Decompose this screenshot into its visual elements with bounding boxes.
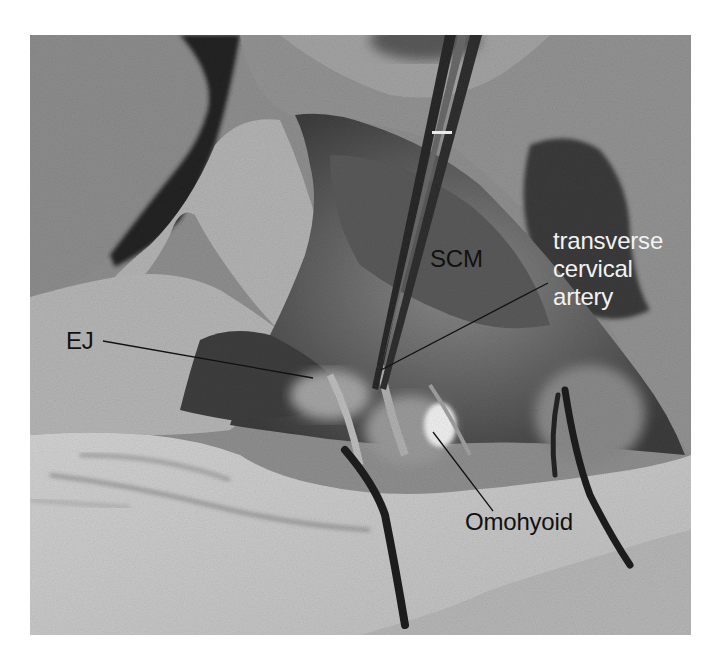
label-omohyoid: Omohyoid	[465, 508, 573, 536]
surgical-photo	[30, 35, 691, 635]
label-tca-line-1: transverse	[553, 227, 663, 255]
label-ej: EJ	[66, 327, 94, 355]
label-scm: SCM	[430, 245, 483, 273]
label-transverse-cervical-artery: transverse cervical artery	[553, 227, 663, 311]
photo-scene	[30, 35, 691, 635]
label-tca-line-2: cervical	[553, 255, 663, 283]
label-tca-line-3: artery	[553, 283, 663, 311]
omohyoid-highlight	[424, 403, 456, 447]
